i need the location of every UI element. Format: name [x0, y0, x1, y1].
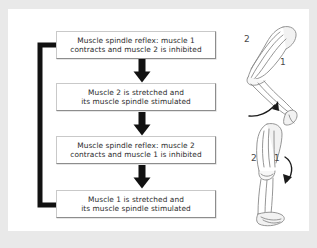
figure-panel: Muscle spindle reflex: muscle 1 contract… [8, 9, 309, 231]
leg-straight-label-1: 1 [274, 153, 280, 163]
leg-bent-label-2: 2 [244, 34, 250, 44]
flow-step-4-text: Muscle 1 is stretched and its muscle spi… [78, 195, 194, 214]
flow-step-1: Muscle spindle reflex: muscle 1 contract… [56, 31, 216, 59]
connector-3-4-arrow [130, 165, 154, 189]
connector-1-2-arrow [130, 59, 154, 83]
flow-step-2-line-2: its muscle spindle stimulated [81, 97, 191, 106]
flow-step-4-line-2: its muscle spindle stimulated [81, 204, 191, 213]
flow-step-1-text: Muscle spindle reflex: muscle 1 contract… [67, 36, 204, 55]
connector-2-3-arrow [130, 112, 154, 136]
flow-step-4: Muscle 1 is stretched and its muscle spi… [56, 190, 216, 218]
leg-straight-illustration [236, 121, 312, 233]
flow-step-3-text: Muscle spindle reflex: muscle 2 contract… [67, 141, 204, 160]
flow-step-3-line-1: Muscle spindle reflex: muscle 2 [77, 141, 195, 150]
flow-step-3: Muscle spindle reflex: muscle 2 contract… [56, 136, 216, 164]
leg-bent-label-1: 1 [280, 57, 286, 67]
flow-step-2-text: Muscle 2 is stretched and its muscle spi… [78, 88, 194, 107]
leg-straight-label-2: 2 [251, 153, 257, 163]
flow-step-3-line-2: contracts and muscle 1 is inhibited [70, 150, 201, 159]
flow-step-2: Muscle 2 is stretched and its muscle spi… [56, 83, 216, 111]
flow-step-4-line-1: Muscle 1 is stretched and [88, 195, 184, 204]
feedback-loop-arrow [28, 37, 80, 213]
flow-step-2-line-1: Muscle 2 is stretched and [88, 88, 184, 97]
figure-container: Muscle spindle reflex: muscle 1 contract… [0, 0, 317, 248]
flow-step-1-line-1: Muscle spindle reflex: muscle 1 [77, 36, 195, 45]
flow-step-1-line-2: contracts and muscle 2 is inhibited [70, 45, 201, 54]
